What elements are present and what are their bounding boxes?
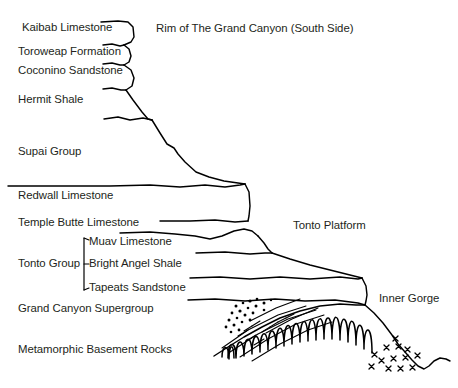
label-coconino-sandstone: Coconino Sandstone: [18, 65, 123, 76]
label-bright-angel-shale: Bright Angel Shale: [89, 258, 182, 269]
grand-canyon-cross-section: Kaibab Limestone Toroweap Formation Coco…: [0, 0, 458, 388]
tonto-platform-surface: [272, 253, 362, 278]
label-supai-group: Supai Group: [18, 146, 81, 157]
label-metamorphic-basement-rocks: Metamorphic Basement Rocks: [18, 344, 172, 355]
supai-redwall-contact: [8, 184, 245, 187]
hermit-supai-contact: [104, 117, 152, 120]
label-toroweap-formation: Toroweap Formation: [18, 46, 121, 57]
coconino-cliff-edge: [124, 65, 134, 90]
toroweap-cliff-edge: [124, 45, 131, 65]
label-tapeats-sandstone: Tapeats Sandstone: [89, 282, 186, 293]
temple-butte-slope: [258, 236, 272, 253]
label-hermit-shale: Hermit Shale: [18, 94, 83, 105]
label-muav-limestone: Muav Limestone: [89, 236, 172, 247]
bright-angel-shale-contact: [190, 277, 362, 279]
label-kaibab-limestone: Kaibab Limestone: [22, 22, 112, 33]
muav-limestone-contact: [196, 252, 272, 254]
label-grand-canyon-supergroup: Grand Canyon Supergroup: [18, 303, 154, 314]
label-temple-butte-limestone: Temple Butte Limestone: [18, 217, 139, 228]
coconino-hermit-contact: [103, 88, 126, 90]
redwall-temple-contact: [160, 220, 248, 222]
inner-gorge-rim-drop: [362, 278, 367, 305]
redwall-limestone-cliff: [245, 184, 250, 221]
label-redwall-limestone: Redwall Limestone: [18, 190, 113, 201]
hermit-shale-slope: [126, 90, 152, 120]
supai-group-slope: [152, 120, 245, 184]
label-tonto-group: Tonto Group: [18, 258, 80, 269]
metamorphic-fold-pattern: [228, 317, 372, 358]
label-tonto-platform: Tonto Platform: [293, 220, 366, 231]
label-inner-gorge: Inner Gorge: [379, 293, 439, 304]
label-rim-of-grand-canyon: Rim of The Grand Canyon (South Side): [156, 23, 353, 34]
granite-x-pattern: [369, 336, 420, 371]
